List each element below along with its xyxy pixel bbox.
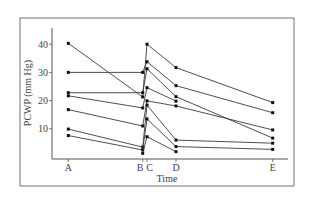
data-point [175,145,178,148]
y-tick-label: 20 [38,95,48,106]
series-line [143,137,176,154]
data-point [146,43,149,46]
series-group [67,42,274,155]
data-point [67,91,70,94]
chart-frame [20,18,294,186]
data-point [271,101,274,104]
x-axis-title: Time [157,173,178,184]
series-line [68,88,176,108]
data-point [175,100,178,103]
data-point [271,111,274,114]
data-point [271,128,274,131]
data-point [146,99,149,102]
data-point [175,84,178,87]
y-tick-label: 30 [38,67,48,78]
x-tick-label: D [172,162,179,173]
series-line [68,69,272,138]
data-point [146,135,149,138]
x-tick-label: E [270,162,276,173]
data-point [146,60,149,63]
data-point [175,139,178,142]
data-point [175,104,178,107]
data-point [141,152,144,155]
data-point [67,108,70,111]
x-tick-label: B [137,162,144,173]
pcwp-line-chart: 10203040ABCDE PCWP (mm Hg) Time [0,0,309,202]
data-point [271,137,274,140]
data-point [67,42,70,45]
data-point [146,117,149,120]
axes: 10203040ABCDE [38,28,288,173]
data-point [67,94,70,97]
data-point [146,104,149,107]
series-line [68,43,272,102]
y-tick-label: 10 [38,123,48,134]
x-tick-label: A [65,162,73,173]
data-point [67,128,70,131]
data-point [141,95,144,98]
data-point [271,142,274,145]
data-point [67,134,70,137]
data-point [141,91,144,94]
data-point [146,67,149,70]
y-axis-title: PCWP (mm Hg) [22,60,34,126]
data-point [146,86,149,89]
data-point [175,66,178,69]
data-point [141,71,144,74]
data-point [175,150,178,153]
data-point [67,71,70,74]
data-point [271,148,274,151]
x-tick-label: C [146,162,153,173]
data-point [141,124,144,127]
data-point [141,106,144,109]
series-line [68,119,272,150]
series-line [68,101,272,130]
data-point [175,95,178,98]
y-tick-label: 40 [38,39,48,50]
